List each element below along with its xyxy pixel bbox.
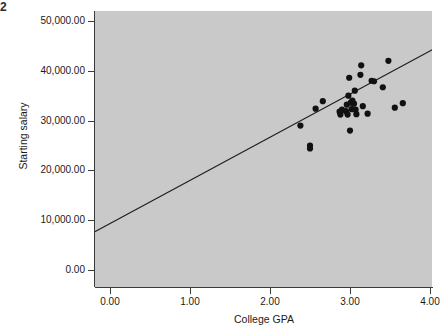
x-axis-tick-label: 2.00 (247, 296, 293, 307)
scatterplot-figure: 2 0.0010,000.0020,000.0030,000.0040,000.… (0, 0, 447, 333)
data-point (347, 127, 353, 133)
data-point (346, 75, 352, 81)
data-point (320, 98, 326, 104)
x-axis-line (95, 287, 433, 288)
y-axis-tick-label: 40,000.00 (41, 65, 86, 76)
y-axis-tick-label: 0.00 (66, 264, 85, 275)
data-point (297, 122, 303, 128)
y-axis-tick-label: 20,000.00 (41, 164, 86, 175)
data-point (352, 88, 358, 94)
plot-canvas (95, 11, 432, 287)
data-point (371, 78, 377, 84)
page-corner-artifact: 2 (0, 0, 9, 14)
y-axis-title: Starting salary (17, 81, 29, 191)
data-point (380, 84, 386, 90)
data-point (345, 93, 351, 99)
regression-line-segment (95, 41, 432, 231)
y-axis-tick (88, 21, 95, 22)
y-axis-tick-label: 30,000.00 (41, 115, 86, 126)
data-point (345, 112, 351, 118)
x-axis-tick-label: 3.00 (327, 296, 373, 307)
x-axis-tick (350, 288, 351, 294)
x-axis-tick-label: 0.00 (87, 296, 133, 307)
regression-line (95, 41, 432, 231)
data-points (297, 58, 406, 152)
data-point (385, 58, 391, 64)
y-axis-tick (88, 71, 95, 72)
data-point (353, 111, 359, 117)
y-axis-tick (88, 121, 95, 122)
y-axis-tick-label: 10,000.00 (41, 214, 86, 225)
x-axis-tick-label: 4.00 (407, 296, 447, 307)
y-axis-tick-label: 50,000.00 (41, 15, 86, 26)
data-point (357, 72, 363, 78)
data-point (358, 62, 364, 68)
data-point (365, 111, 371, 117)
plot-area (95, 11, 432, 287)
x-axis-title: College GPA (95, 313, 433, 325)
y-axis-line (94, 11, 95, 287)
x-axis-tick (110, 288, 111, 294)
data-point (400, 100, 406, 106)
x-axis-tick-label: 1.00 (167, 296, 213, 307)
data-point (360, 103, 366, 109)
data-point (392, 105, 398, 111)
data-point (351, 101, 357, 107)
y-axis-tick (88, 270, 95, 271)
x-axis-tick (270, 288, 271, 294)
x-axis-tick (190, 288, 191, 294)
y-axis-tick (88, 220, 95, 221)
data-point (313, 106, 319, 112)
data-point (307, 145, 313, 151)
x-axis-tick (430, 288, 431, 294)
y-axis-tick (88, 170, 95, 171)
